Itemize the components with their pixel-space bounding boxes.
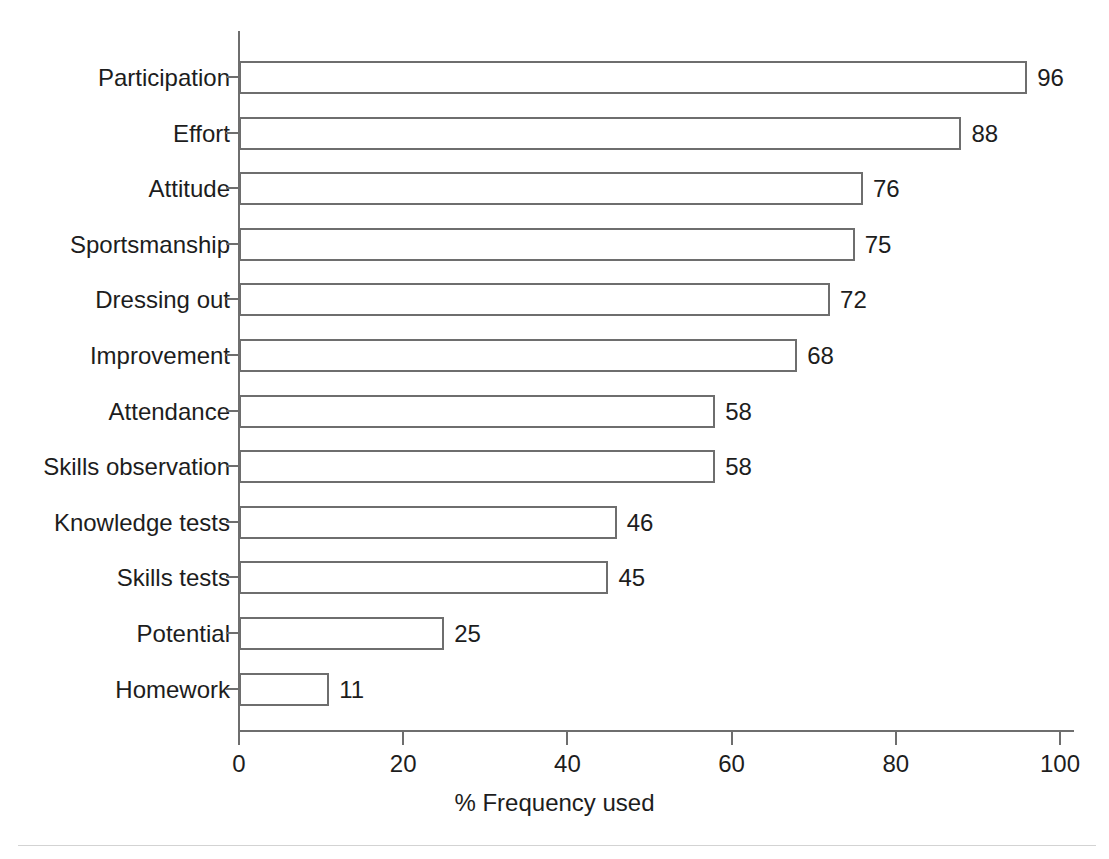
bar [239,283,830,316]
bar [239,117,961,150]
bar-value-label: 76 [873,172,900,205]
page-edge-line [18,845,1096,846]
bar-value-label: 96 [1037,61,1064,94]
category-tick [226,410,239,412]
bar-row: Skills tests45 [0,561,1109,594]
bar [239,61,1027,94]
category-tick [226,521,239,523]
x-axis-title: % Frequency used [0,789,1109,817]
category-label: Knowledge tests [54,506,230,539]
category-tick [226,688,239,690]
bar-value-label: 45 [618,561,645,594]
category-label: Effort [173,117,230,150]
category-label: Participation [98,61,230,94]
bar-row: Sportsmanship75 [0,228,1109,261]
bar-row: Homework11 [0,673,1109,706]
x-axis-tick [1059,731,1061,745]
category-label: Potential [137,617,230,650]
x-axis-tick [895,731,897,745]
bar-row: Attendance58 [0,395,1109,428]
bar-value-label: 58 [725,450,752,483]
bar-value-label: 58 [725,395,752,428]
x-axis-tick [731,731,733,745]
x-axis-line [238,730,1074,732]
bar [239,339,797,372]
bar [239,172,863,205]
category-label: Dressing out [95,283,230,316]
bar-row: Dressing out72 [0,283,1109,316]
bar-row: Knowledge tests46 [0,506,1109,539]
bar [239,395,715,428]
x-axis-tick-label: 100 [1040,750,1080,778]
bar [239,673,329,706]
bar [239,617,444,650]
category-label: Attitude [149,172,230,205]
bar-value-label: 75 [865,228,892,261]
category-tick [226,354,239,356]
bar [239,561,608,594]
bar-value-label: 25 [454,617,481,650]
bar-value-label: 68 [807,339,834,372]
bar-row: Improvement68 [0,339,1109,372]
bar-value-label: 11 [339,673,364,706]
x-axis-tick-label: 20 [390,750,417,778]
category-label: Homework [115,673,230,706]
bar-row: Skills observation58 [0,450,1109,483]
category-tick [226,632,239,634]
x-axis-tick [566,731,568,745]
x-axis-tick-label: 60 [718,750,745,778]
category-tick [226,465,239,467]
bar-chart-figure: Participation96Effort88Attitude76Sportsm… [0,0,1109,859]
category-tick [226,76,239,78]
category-label: Skills tests [117,561,230,594]
category-label: Attendance [109,395,230,428]
bar-value-label: 46 [627,506,654,539]
bar-row: Effort88 [0,117,1109,150]
x-axis-tick-label: 40 [554,750,581,778]
category-tick [226,187,239,189]
bar [239,228,855,261]
category-tick [226,298,239,300]
category-label: Skills observation [43,450,230,483]
bar-row: Attitude76 [0,172,1109,205]
x-axis-tick [238,731,240,745]
bar-value-label: 72 [840,283,867,316]
category-tick [226,132,239,134]
bar-row: Potential25 [0,617,1109,650]
bar-row: Participation96 [0,61,1109,94]
category-tick [226,576,239,578]
x-axis-tick-label: 0 [232,750,245,778]
bar [239,450,715,483]
x-axis-tick [402,731,404,745]
bar-value-label: 88 [971,117,998,150]
category-label: Improvement [90,339,230,372]
x-axis-tick-label: 80 [882,750,909,778]
category-label: Sportsmanship [70,228,230,261]
bar [239,506,617,539]
category-tick [226,243,239,245]
